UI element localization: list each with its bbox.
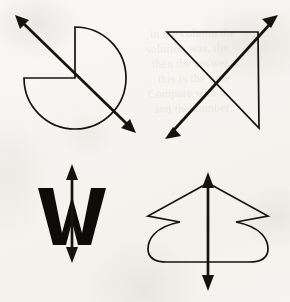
figure-2-right-triangle-with-diagonal-axis bbox=[165, 15, 278, 139]
figure-4-vase-shape-with-vertical-axis bbox=[148, 172, 268, 291]
three-quarter-circle-outline bbox=[24, 27, 126, 129]
figure-2-symmetry-axis-line bbox=[173, 24, 270, 131]
figure-3-arrowhead-bottom bbox=[66, 247, 78, 263]
figure-2-arrowhead-upper-right bbox=[262, 15, 278, 28]
figure-3-letter-w-with-vertical-axis bbox=[38, 164, 106, 263]
figure-1-three-quarter-circle-with-diagonal-axis bbox=[15, 15, 136, 133]
figure-4-arrowhead-top bbox=[202, 172, 214, 188]
figure-4-arrowhead-bottom bbox=[202, 275, 214, 291]
figure-2-arrowhead-lower-left bbox=[165, 127, 181, 139]
worksheet-sheet: in the column the solution was, the then… bbox=[0, 0, 290, 302]
right-triangle-outline bbox=[167, 32, 259, 128]
figure-3-arrowhead-top bbox=[66, 164, 78, 180]
figures-canvas bbox=[0, 0, 290, 302]
